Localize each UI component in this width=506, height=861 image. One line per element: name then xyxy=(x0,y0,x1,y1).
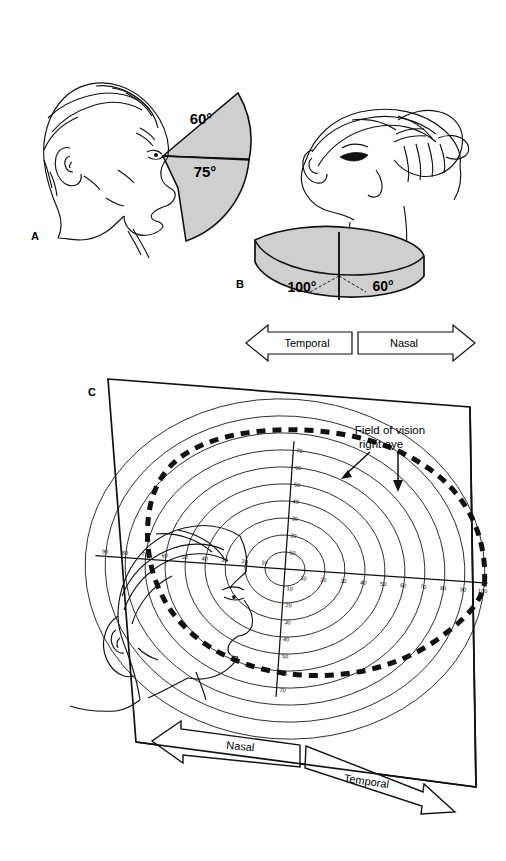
hair-stroke-1 xyxy=(312,116,436,152)
finger-1 xyxy=(404,146,409,182)
panel-c-label: C xyxy=(88,386,96,398)
face-contour-2 xyxy=(106,198,124,206)
tick-down-40: 40 xyxy=(283,636,290,642)
temple-outline xyxy=(332,212,354,220)
skull-left-outline xyxy=(302,160,333,212)
panel-b: 100° 60° B Temporal Nasal xyxy=(236,109,475,361)
panel-b-nasal-angle-label: 60° xyxy=(372,278,393,294)
brow-line-1 xyxy=(140,128,155,140)
eye-b xyxy=(340,153,368,161)
tick-left-40: 40 xyxy=(201,555,208,561)
tick-down-30: 30 xyxy=(284,619,291,625)
face-contour-1 xyxy=(118,170,134,183)
tick-left-60: 60 xyxy=(161,552,168,558)
hand-lower-outline xyxy=(394,160,420,176)
ear-outline-b xyxy=(303,150,327,183)
tick-up-70: 70 xyxy=(296,448,303,454)
tick-down-50: 50 xyxy=(282,653,289,659)
tick-up-20: 20 xyxy=(290,532,297,538)
tick-up-40: 40 xyxy=(293,498,300,504)
finger-3 xyxy=(428,143,433,177)
tick-right-80: 80 xyxy=(440,585,447,591)
tick-up-30: 30 xyxy=(291,515,298,521)
brow-b xyxy=(342,144,368,148)
skull-right-outline xyxy=(454,166,461,200)
tick-left-10: 10 xyxy=(261,559,268,565)
tick-right-70: 70 xyxy=(420,583,427,589)
panel-a-label: A xyxy=(31,230,39,242)
chin-outline xyxy=(124,216,163,235)
tick-up-10: 10 xyxy=(289,549,296,555)
figure-visual-field: 60° 75° A xyxy=(0,0,506,861)
jaw-outline xyxy=(80,216,124,240)
tick-down-10: 10 xyxy=(286,585,293,591)
hair-line-2 xyxy=(52,103,142,132)
panel-b-nasal-label: Nasal xyxy=(390,337,418,349)
finger-4 xyxy=(440,144,445,173)
cheek-line xyxy=(84,176,100,190)
neck-outline xyxy=(58,238,80,240)
callout-line-1: Field of vision xyxy=(355,424,425,436)
panel-b-temporal-angle-label: 100° xyxy=(288,279,317,295)
tick-up-50: 50 xyxy=(294,481,301,487)
eyelid-upper xyxy=(147,150,162,154)
ear-inner-1 xyxy=(65,156,73,172)
tick-right-20: 20 xyxy=(320,576,327,582)
observer-jaw-bottom xyxy=(70,706,116,711)
nose-b xyxy=(368,170,382,197)
panel-b-label: B xyxy=(236,278,244,290)
hair-stroke-2 xyxy=(318,125,436,166)
tick-up-60: 60 xyxy=(295,464,302,470)
panel-b-field-plane xyxy=(255,227,424,301)
callout-line-2: right eye xyxy=(359,438,403,450)
figure-canvas: 60° 75° A xyxy=(0,0,506,861)
observer-ear-inner-2 xyxy=(117,638,120,648)
panel-a: 60° 75° A xyxy=(31,83,251,258)
tick-right-90: 90 xyxy=(460,586,467,592)
tick-right-30: 30 xyxy=(340,578,347,584)
thumb-outline xyxy=(438,136,469,160)
tick-right-10: 10 xyxy=(300,575,307,581)
knuckle-line-2 xyxy=(394,136,426,142)
panel-b-temporal-label: Temporal xyxy=(284,337,329,349)
panel-c: C 10 20 xyxy=(70,379,500,814)
eyelid-lower xyxy=(148,157,163,159)
tick-right-40: 40 xyxy=(360,579,367,585)
pupil xyxy=(154,153,158,157)
ear-inner-2 xyxy=(70,162,72,168)
panel-a-superior-angle-label: 60° xyxy=(190,110,213,127)
ear-outline xyxy=(55,147,81,185)
observer-pupil xyxy=(232,595,236,599)
panel-a-inferior-angle-label: 75° xyxy=(194,163,217,180)
skull-top-outline xyxy=(306,109,460,166)
tick-left-90: 90 xyxy=(102,548,109,554)
tick-down-20: 20 xyxy=(285,602,292,608)
ear-inner-b xyxy=(309,158,318,173)
tick-left-80: 80 xyxy=(122,550,129,556)
tick-right-50: 50 xyxy=(380,581,387,587)
finger-2 xyxy=(416,144,421,180)
panel-b-direction-arrow: Temporal Nasal xyxy=(246,325,475,361)
lips-outline xyxy=(151,207,163,227)
panel-a-head-profile xyxy=(44,83,176,258)
tick-right-60: 60 xyxy=(400,582,407,588)
tick-down-70: 70 xyxy=(279,687,286,693)
